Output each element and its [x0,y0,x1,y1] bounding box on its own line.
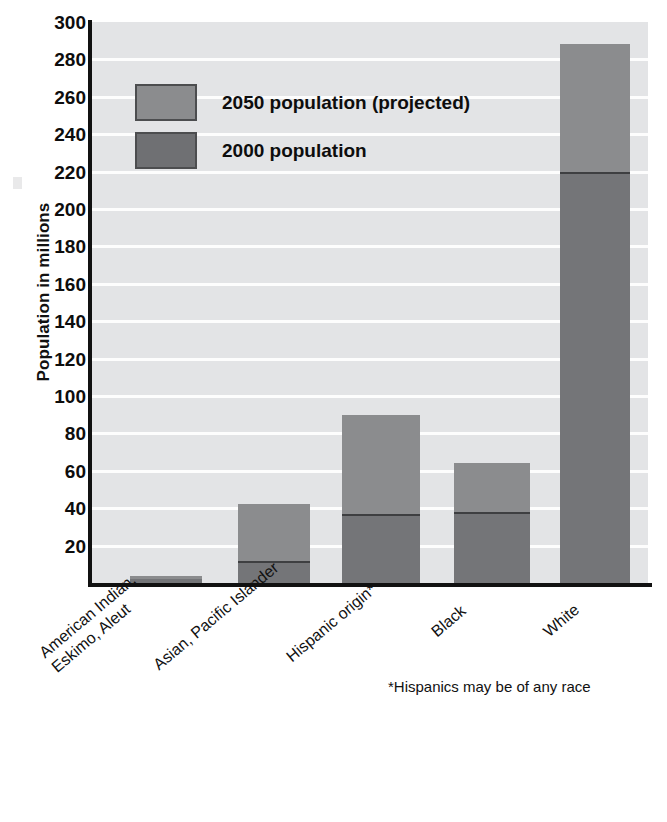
bar-segment-divider [342,514,420,516]
category-label-3: Hispanic origin* [283,581,380,667]
bar-segment-2000 [454,512,530,583]
bar-segment-2000 [560,172,630,583]
y-tick-60: 60 [28,462,86,481]
y-tick-140: 140 [28,312,86,331]
y-tick-220: 220 [28,163,86,182]
y-axis-tick-labels: 3002802602402202001801601401201008060402… [28,0,86,600]
y-tick-240: 240 [28,125,86,144]
legend-label: 2000 population [222,140,367,162]
legend-item-2050[interactable]: 2050 population (projected) [135,84,470,121]
category-label-5: White [540,601,583,642]
category-label-line1: White [540,601,582,640]
scan-artifact [13,177,22,189]
plot-area: 2050 population (projected)2000 populati… [92,22,648,583]
legend-label: 2050 population (projected) [222,92,470,114]
y-tick-160: 160 [28,275,86,294]
bar-segment-2000 [130,579,202,583]
y-tick-100: 100 [28,387,86,406]
y-tick-80: 80 [28,424,86,443]
population-bar-chart: Population in millions 30028026024022020… [0,0,667,822]
y-tick-180: 180 [28,237,86,256]
legend-swatch-2050 [135,84,197,121]
y-tick-260: 260 [28,88,86,107]
bar-hispanic-origin[interactable] [342,415,420,583]
y-tick-280: 280 [28,50,86,69]
category-label-line1: Black [428,602,469,640]
bar-segment-divider [454,512,530,514]
footnote: *Hispanics may be of any race [388,678,591,695]
legend-swatch-2000 [135,132,197,169]
y-tick-40: 40 [28,499,86,518]
bar-segment-divider [560,172,630,174]
y-tick-20: 20 [28,537,86,556]
category-label-line1: Hispanic origin* [283,581,379,665]
bar-segment-2000 [342,514,420,583]
y-tick-300: 300 [28,13,86,32]
bar-black[interactable] [454,463,530,583]
y-tick-120: 120 [28,350,86,369]
y-tick-200: 200 [28,200,86,219]
bar-american-indian-eskimo-aleut[interactable] [130,576,202,583]
bar-white[interactable] [560,44,630,583]
legend-item-2000[interactable]: 2000 population [135,132,367,169]
category-label-4: Black [428,602,470,642]
